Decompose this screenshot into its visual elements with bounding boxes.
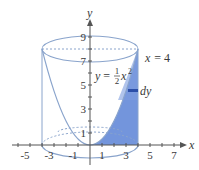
x-axis-label: x [188,138,195,152]
y-tick-label: 7 [81,55,87,67]
svg-text:2: 2 [128,67,132,76]
y-tick-label: 1 [81,127,87,139]
x-axis-arrow-icon [180,142,187,148]
x-tick-label: 7 [171,149,177,161]
x-tick-label: 1 [99,149,105,161]
line-label-x4: x = 4 [144,51,170,65]
y-axis-arrow-icon [87,19,93,26]
svg-text:y =: y = [94,69,110,83]
diagram-canvas: -5 -3 -1 1 3 5 7 1 3 5 7 9 x y dy x = 4 … [0,0,199,170]
y-tick-label: 3 [81,103,87,115]
x-tick-label: -3 [44,149,54,161]
y-axis-label: y [86,6,93,20]
y-tick-label: 9 [81,31,87,43]
x-tick-label: -5 [20,149,30,161]
x-tick-label: -1 [68,149,77,161]
svg-text:2: 2 [115,76,120,86]
svg-text:x: x [120,69,127,83]
x-tick-label: 3 [123,149,129,161]
y-tick-label: 5 [81,79,87,91]
dy-label: dy [140,84,152,98]
dy-strip [128,89,138,92]
x-tick-label: 5 [147,149,153,161]
svg-text:1: 1 [115,66,120,76]
